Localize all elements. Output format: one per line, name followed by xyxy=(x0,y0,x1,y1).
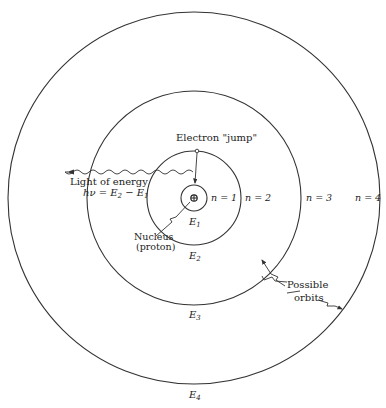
n1-label: n = 1 xyxy=(211,192,237,203)
light-label-equation: hν = E2 − E1 xyxy=(83,187,149,200)
photon-wave xyxy=(65,170,193,174)
electron-jump-arrow xyxy=(195,149,199,183)
n3-label: n = 3 xyxy=(306,192,332,203)
bohr-atom-diagram: Electron "jump" Light of energy hν = E2 … xyxy=(0,0,386,408)
light-label-line1: Light of energy xyxy=(70,176,148,187)
n4-label: n = 4 xyxy=(355,192,381,203)
nucleus-label-line2: (proton) xyxy=(136,241,175,252)
possible-orbits-label-line2: orbits xyxy=(294,292,324,303)
e4-label: E4 xyxy=(188,389,201,402)
nucleus-proton xyxy=(191,195,197,201)
possible-orbits-label-line1: Possible xyxy=(287,279,328,290)
possible-orbits-pointer-1 xyxy=(262,260,285,286)
e1-label: E1 xyxy=(188,216,201,229)
e3-label: E3 xyxy=(188,309,201,322)
electron-jump-label: Electron "jump" xyxy=(176,132,257,143)
n2-label: n = 2 xyxy=(245,192,271,203)
e2-label: E2 xyxy=(188,250,201,263)
